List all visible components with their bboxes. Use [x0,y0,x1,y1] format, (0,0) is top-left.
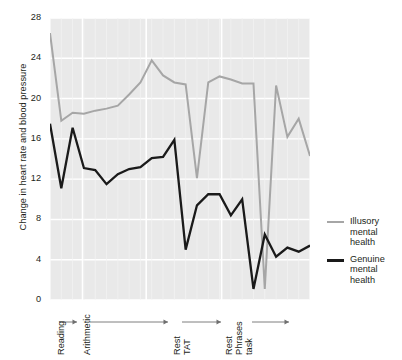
legend-entry-genuine: Genuine mental health [327,254,402,286]
y-tick-label: 24 [31,54,41,63]
legend-entry-illusory: Illusory mental health [327,216,402,248]
plot-canvas [50,18,310,300]
gridlines [50,18,310,300]
legend-label-genuine-line-3: health [350,275,402,286]
y-tick-label: 20 [31,94,41,103]
legend-label-illusory-line-3: health [350,237,402,248]
x-axis-label-line: Reading [56,321,66,355]
series-line [50,124,310,289]
x-axis-arrow-head [217,319,222,324]
y-tick-label: 12 [31,175,41,184]
x-axis-label-line: Rest [224,321,234,355]
x-axis-label-line: Arithmetic [82,314,92,355]
legend-label-genuine-line-1: Genuine [350,254,402,265]
x-axis-arrow-head [73,319,78,324]
x-axis-arrow-head [164,319,169,324]
x-axis-arrow-head [285,319,290,324]
legend-label-illusory: Illusory mental health [350,216,402,248]
y-tick-label: 28 [31,13,41,22]
legend-label-illusory-line-2: mental [350,227,402,238]
x-axis-label: RestTAT [172,336,192,355]
plot-area [50,18,310,300]
legend-label-genuine-line-2: mental [350,264,402,275]
y-tick-label: 8 [36,215,41,224]
x-axis-label: Arithmetic [82,314,92,355]
x-axis-label: RestPhrasestask [224,321,255,355]
y-tick-label: 16 [31,134,41,143]
y-tick-label: 4 [36,255,41,264]
x-axis-label: Reading [56,321,66,355]
x-axis: ReadingArithmeticRestTATRestPhrasestask [0,300,402,360]
legend-swatch-genuine [327,259,344,262]
x-axis-label-line: Rest [172,336,182,355]
series-line [50,33,310,289]
x-axis-label-line: Phrases [234,321,244,355]
chart-legend: Illusory mental health Genuine mental he… [327,216,402,292]
legend-swatch-illusory [327,221,344,223]
x-axis-label-line: TAT [182,336,192,355]
legend-label-illusory-line-1: Illusory [350,216,402,227]
legend-label-genuine: Genuine mental health [350,254,402,286]
chart-figure: Change in heart rate and blood pressure … [0,0,402,360]
series-lines [50,33,310,289]
x-axis-label-line: task [244,321,254,355]
